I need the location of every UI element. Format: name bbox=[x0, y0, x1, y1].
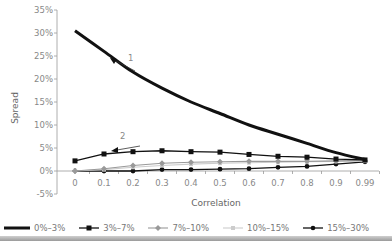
x-tick-label: 0.7 bbox=[271, 178, 285, 188]
y-tick-label: 10% bbox=[34, 120, 53, 130]
x-tick-label: 0.3 bbox=[155, 178, 169, 188]
diamond-marker-icon bbox=[72, 168, 78, 174]
arrow-head-icon bbox=[111, 147, 118, 153]
square-marker-icon bbox=[247, 152, 252, 157]
x-tick-label: 0.6 bbox=[242, 178, 256, 188]
thick-line-icon bbox=[4, 225, 30, 231]
y-tick-label: 25% bbox=[34, 51, 53, 61]
y-tick-label: -5% bbox=[36, 189, 53, 199]
legend-item-7-10: 7%–10% bbox=[148, 223, 209, 233]
square-marker-icon bbox=[73, 158, 78, 163]
circle-marker-icon bbox=[218, 167, 223, 172]
x-tick-label: 0.5 bbox=[213, 178, 227, 188]
circle-marker-icon bbox=[305, 164, 310, 169]
x-tick-label: 0.8 bbox=[300, 178, 314, 188]
x-tick-label: 0.1 bbox=[97, 178, 111, 188]
circle-marker-icon bbox=[189, 167, 194, 172]
y-tick-label: 5% bbox=[40, 143, 54, 153]
x-axis: 00.10.20.30.40.50.60.70.80.90.99 bbox=[57, 171, 380, 188]
annotation-2: 2 bbox=[111, 131, 140, 153]
square-marker-line-icon bbox=[79, 224, 99, 232]
legend-item-3-7: 3%–7% bbox=[79, 223, 134, 233]
series-0%–3% bbox=[75, 31, 365, 160]
svg-text:1: 1 bbox=[128, 53, 133, 63]
square-marker-icon bbox=[334, 157, 339, 162]
y-tick-label: 30% bbox=[34, 28, 53, 38]
legend-item-15-30: 15%–30% bbox=[303, 223, 369, 233]
square-marker-icon bbox=[160, 148, 165, 153]
diamond-marker-icon bbox=[246, 158, 252, 164]
square-marker-icon bbox=[218, 150, 223, 155]
square-marker-icon bbox=[305, 155, 310, 160]
x-axis-title: Correlation bbox=[191, 198, 241, 208]
diamond-marker-line-icon bbox=[148, 224, 168, 232]
square-marker-icon bbox=[189, 149, 194, 154]
x-tick-label: 0 bbox=[72, 178, 77, 188]
y-axis-title: Spread bbox=[10, 92, 20, 124]
bottom-border bbox=[0, 236, 392, 241]
legend: 0%–3% 3%–7% 7%–10% 10%–15% 15%–30% bbox=[0, 222, 392, 234]
x-tick-label: 0.2 bbox=[126, 178, 140, 188]
y-axis: 35%30%25%20%15%10%5%0%-5% bbox=[34, 5, 57, 199]
annotation-1: 1 bbox=[110, 53, 135, 71]
line-chart: 35%30%25%20%15%10%5%0%-5% 00.10.20.30.40… bbox=[0, 0, 392, 241]
legend-item-10-15: 10%–15% bbox=[223, 223, 289, 233]
y-tick-label: 0% bbox=[40, 166, 54, 176]
circle-marker-line-icon bbox=[303, 224, 323, 232]
circle-marker-icon bbox=[276, 165, 281, 170]
circle-marker-icon bbox=[160, 167, 165, 172]
x-tick-label: 0.99 bbox=[356, 178, 375, 188]
square-marker-icon bbox=[131, 149, 136, 154]
light-square-marker-line-icon bbox=[223, 224, 243, 232]
circle-marker-icon bbox=[247, 166, 252, 171]
x-tick-label: 0.4 bbox=[184, 178, 198, 188]
y-tick-label: 15% bbox=[34, 97, 53, 107]
legend-item-0-3: 0%–3% bbox=[4, 223, 65, 233]
diamond-marker-icon bbox=[217, 159, 223, 165]
square-marker-icon bbox=[102, 151, 107, 156]
svg-text:2: 2 bbox=[120, 131, 125, 141]
diamond-marker-icon bbox=[275, 158, 281, 164]
y-tick-label: 35% bbox=[34, 5, 53, 15]
x-tick-label: 0.9 bbox=[329, 178, 343, 188]
square-marker-icon bbox=[276, 154, 281, 159]
y-tick-label: 20% bbox=[34, 74, 53, 84]
